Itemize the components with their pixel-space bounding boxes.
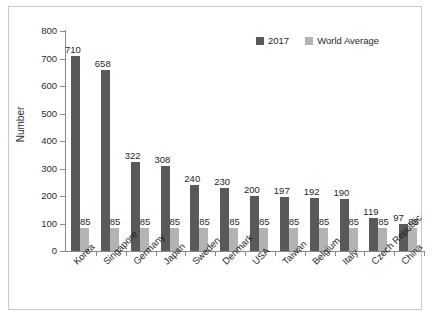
bar-value-label: 85 <box>319 217 330 227</box>
chart-legend: 2017World Average <box>256 35 379 46</box>
bar[interactable] <box>71 56 80 251</box>
x-axis-tick <box>215 251 216 256</box>
bar[interactable] <box>101 70 110 251</box>
legend-item[interactable]: World Average <box>305 35 379 46</box>
bar-group: 19085 <box>335 31 365 251</box>
x-axis-tick <box>364 251 365 256</box>
bar-value-label: 85 <box>170 217 181 227</box>
bar[interactable] <box>190 185 199 251</box>
bar-value-label: 85 <box>259 217 270 227</box>
y-axis-tick-label: 500 <box>25 109 57 119</box>
plot-area: 7108565885322853088524085230852008519785… <box>66 31 424 251</box>
bar-value-label: 85 <box>349 217 360 227</box>
bar-value-label: 85 <box>80 217 91 227</box>
x-axis-tick <box>394 251 395 256</box>
bar-value-label: 192 <box>304 187 320 197</box>
bar-group: 24085 <box>185 31 215 251</box>
x-axis-tick <box>156 251 157 256</box>
bar-value-label: 97 <box>393 213 404 223</box>
chart-frame: Number 8007006005004003002001000 7108565… <box>8 6 422 310</box>
legend-label: World Average <box>317 35 379 46</box>
legend-label: 2017 <box>268 35 289 46</box>
bar-value-label: 658 <box>95 59 111 69</box>
x-axis-tick <box>305 251 306 256</box>
bar-value-label: 308 <box>155 155 171 165</box>
bar-value-label: 197 <box>274 186 290 196</box>
bar[interactable] <box>280 197 289 251</box>
bar-value-label: 85 <box>289 217 300 227</box>
legend-swatch-icon <box>256 37 264 45</box>
bar-group: 65885 <box>96 31 126 251</box>
bar-value-label: 119 <box>363 207 378 217</box>
x-axis-tick <box>424 251 425 256</box>
bar-value-label: 85 <box>199 217 210 227</box>
x-axis-tick <box>96 251 97 256</box>
bar-value-label: 85 <box>229 217 240 227</box>
bar-value-label: 322 <box>125 151 141 161</box>
y-axis-tick-label: 700 <box>25 54 57 64</box>
x-axis-tick <box>335 251 336 256</box>
y-axis-tick-label: 400 <box>25 136 57 146</box>
bar-group: 20085 <box>245 31 275 251</box>
bar-value-label: 190 <box>334 188 350 198</box>
bar-group: 32285 <box>126 31 156 251</box>
y-axis-tick-label: 200 <box>25 191 57 201</box>
legend-item[interactable]: 2017 <box>256 35 289 46</box>
bar-value-label: 710 <box>65 45 81 55</box>
bar-value-label: 85 <box>140 217 151 227</box>
y-axis-tick-label: 0 <box>25 246 57 256</box>
bar-group: 71085 <box>66 31 96 251</box>
bar[interactable] <box>310 198 319 251</box>
bar-value-label: 85 <box>378 217 389 227</box>
bar-group: 19785 <box>275 31 305 251</box>
bar[interactable] <box>369 218 378 251</box>
bar-group: 11985 <box>364 31 394 251</box>
x-axis-tick <box>185 251 186 256</box>
bar-group: 30885 <box>156 31 186 251</box>
bar-value-label: 200 <box>244 185 260 195</box>
y-axis-tick-label: 300 <box>25 164 57 174</box>
bar-group: 19285 <box>305 31 335 251</box>
y-axis-tick-label: 600 <box>25 81 57 91</box>
bar-value-label: 240 <box>184 174 200 184</box>
y-axis-tick-label: 100 <box>25 219 57 229</box>
y-axis-tick <box>60 251 66 252</box>
bar-value-label: 230 <box>214 177 230 187</box>
legend-swatch-icon <box>305 37 313 45</box>
x-axis-tick <box>245 251 246 256</box>
bar-value-label: 85 <box>110 217 121 227</box>
y-axis-tick-label: 800 <box>25 26 57 36</box>
x-axis-tick <box>126 251 127 256</box>
bar-group: 23085 <box>215 31 245 251</box>
x-axis-tick <box>275 251 276 256</box>
